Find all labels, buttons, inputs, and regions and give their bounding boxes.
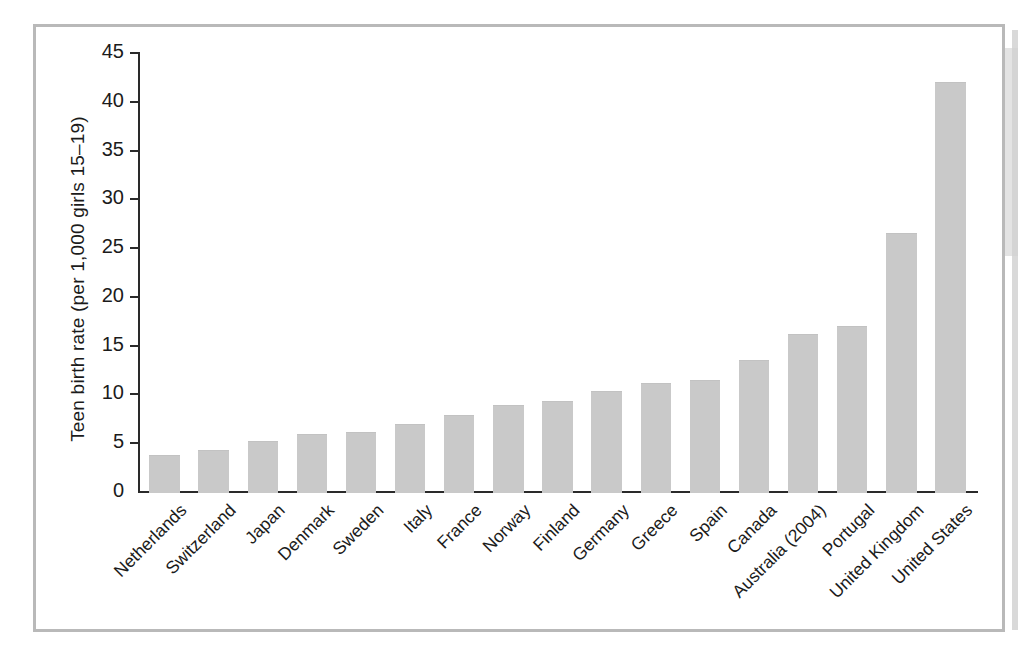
- bar: [591, 391, 621, 493]
- bar-chart: Teen birth rate (per 1,000 girls 15–19) …: [0, 0, 1022, 653]
- y-axis-tick-label: 10: [78, 381, 124, 404]
- y-axis-tick: [130, 247, 140, 249]
- bar: [444, 415, 474, 493]
- x-axis-label: Greece: [627, 500, 682, 555]
- bar: [690, 380, 720, 493]
- bar: [493, 405, 523, 493]
- bar: [198, 450, 228, 493]
- y-axis-tick: [130, 296, 140, 298]
- bar: [149, 455, 179, 493]
- bar: [641, 383, 671, 493]
- x-axis-label: Spain: [685, 500, 732, 547]
- x-axis-label: Sweden: [328, 500, 388, 560]
- y-axis-tick: [130, 150, 140, 152]
- bar: [886, 233, 916, 493]
- y-axis-tick-label: 45: [78, 40, 124, 63]
- y-axis-tick: [130, 101, 140, 103]
- bar: [248, 441, 278, 493]
- bar: [935, 82, 965, 493]
- y-axis-tick: [130, 198, 140, 200]
- y-axis-tick: [130, 345, 140, 347]
- y-axis-tick-label: 0: [78, 479, 124, 502]
- x-axis-label: Norway: [478, 500, 535, 557]
- y-axis-tick: [130, 52, 140, 54]
- bar: [346, 432, 376, 493]
- y-axis-tick: [130, 393, 140, 395]
- bar: [542, 401, 572, 493]
- bar: [739, 360, 769, 493]
- y-axis-tick-label: 40: [78, 89, 124, 112]
- bar: [395, 424, 425, 493]
- figure-page: Teen birth rate (per 1,000 girls 15–19) …: [0, 0, 1022, 653]
- x-axis-label: Italy: [399, 500, 437, 538]
- y-axis-tick-label: 30: [78, 186, 124, 209]
- bar: [837, 326, 867, 493]
- y-axis-tick-label: 15: [78, 333, 124, 356]
- y-axis-tick-label: 20: [78, 284, 124, 307]
- bar: [297, 434, 327, 493]
- y-axis-line: [138, 52, 140, 493]
- x-axis-label: France: [433, 500, 486, 553]
- y-axis-tick: [130, 442, 140, 444]
- bar: [788, 334, 818, 493]
- y-axis-tick-label: 5: [78, 430, 124, 453]
- y-axis-tick-label: 25: [78, 235, 124, 258]
- y-axis-tick-label: 35: [78, 138, 124, 161]
